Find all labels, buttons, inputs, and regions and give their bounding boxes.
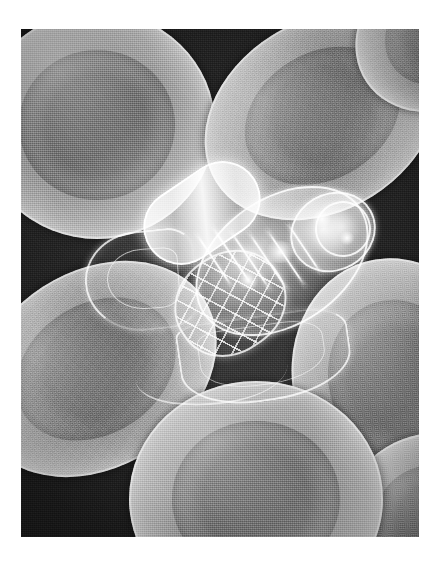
nanorobot-specular-highlight <box>311 211 333 227</box>
nanorobot-specular-highlight <box>339 231 355 245</box>
image-canvas: A translucent nanorobot drifts among sev… <box>0 0 441 564</box>
nanorobot-specular-highlight <box>263 241 297 263</box>
image-caption: A translucent nanorobot drifts among sev… <box>0 16 1 17</box>
nanorobot-specular-highlight <box>235 271 261 289</box>
scene <box>21 29 419 537</box>
nanorobot <box>139 175 389 407</box>
illustration-plate <box>21 29 419 537</box>
